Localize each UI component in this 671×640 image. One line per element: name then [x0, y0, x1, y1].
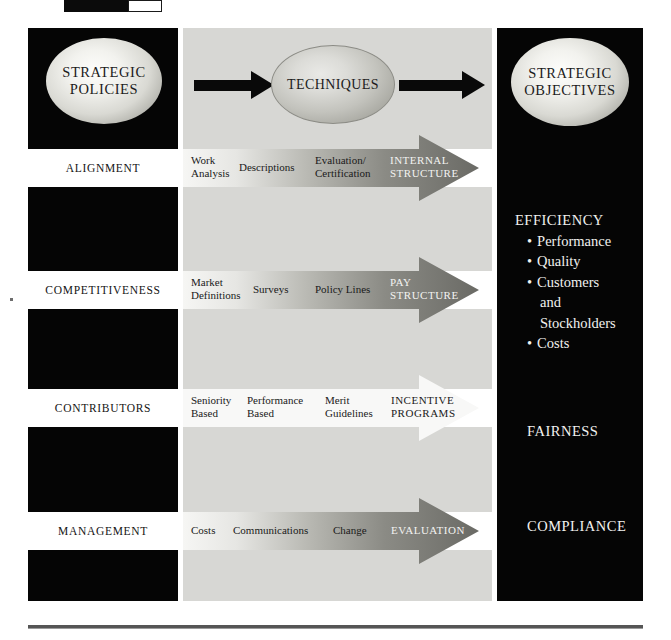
bullet-icon: • [527, 233, 532, 249]
artifact-white-box [128, 0, 162, 12]
technique-label: Communications [233, 524, 325, 537]
process-arrow-management: Costs Communications Change EVALUATION [183, 498, 479, 564]
process-arrow-alignment: Work Analysis Descriptions Evaluation/ C… [183, 135, 479, 201]
arrow-techniques-to-objectives [399, 71, 487, 99]
technique-label: Surveys [253, 283, 309, 296]
technique-label: Evaluation/ Certification [315, 154, 389, 181]
list-item-continuation: and [527, 292, 616, 313]
process-arrow-contributors: Seniority Based Performance Based Merit … [183, 375, 479, 441]
list-item: •Quality [527, 251, 616, 272]
list-item-continuation: Stockholders [527, 313, 616, 334]
process-arrow-labels: Seniority Based Performance Based Merit … [183, 375, 479, 441]
technique-label: Policy Lines [315, 283, 391, 296]
list-item-label: Customers [537, 274, 599, 290]
bullet-icon: • [527, 274, 532, 290]
process-arrow-labels: Costs Communications Change EVALUATION [183, 498, 479, 564]
artifact-black-bar [64, 0, 128, 12]
technique-label: Descriptions [239, 161, 323, 174]
objective-efficiency-heading: EFFICIENCY [515, 210, 616, 231]
objective-compliance: COMPLIANCE [527, 518, 626, 535]
strategic-objectives-title-line2: OBJECTIVES [524, 82, 615, 99]
policy-label-competitiveness: COMPETITIVENESS [28, 271, 178, 309]
arrow-head [462, 71, 485, 99]
list-item: •Performance [527, 231, 616, 252]
arrow-shaft [399, 80, 463, 91]
policy-label-contributors: CONTRIBUTORS [28, 389, 178, 427]
technique-label: Costs [191, 524, 231, 537]
outcome-label: INCENTIVE PROGRAMS [391, 394, 473, 421]
techniques-ellipse: TECHNIQUES [271, 45, 395, 124]
strategic-policies-ellipse: STRATEGIC POLICIES [46, 38, 162, 124]
objective-efficiency-list: •Performance •Quality •Customers and Sto… [515, 231, 616, 354]
list-item-label: Costs [537, 335, 569, 351]
technique-label: Performance Based [247, 394, 321, 421]
process-arrow-competitiveness: Market Definitions Surveys Policy Lines … [183, 257, 479, 323]
objective-fairness: FAIRNESS [527, 423, 598, 440]
strategic-policies-title-line2: POLICIES [70, 81, 138, 98]
outcome-label: PAY STRUCTURE [390, 276, 470, 303]
technique-label: Work Analysis [191, 154, 239, 181]
list-item-label: Performance [537, 233, 611, 249]
outcome-label: EVALUATION [391, 524, 475, 537]
top-crop-artifact [64, 0, 162, 12]
list-item: •Customers [527, 272, 616, 293]
bullet-icon: • [527, 253, 532, 269]
strategic-objectives-title-line1: STRATEGIC [528, 65, 612, 82]
strategic-policies-title-line1: STRATEGIC [62, 64, 146, 81]
bottom-divider [28, 625, 643, 629]
arrow-policies-to-techniques [194, 71, 274, 99]
technique-label: Market Definitions [191, 276, 249, 303]
technique-label: Merit Guidelines [325, 394, 389, 421]
strategic-objectives-ellipse: STRATEGIC OBJECTIVES [511, 38, 629, 126]
policy-label-alignment: ALIGNMENT [28, 149, 178, 187]
scan-speck-artifact [10, 298, 13, 301]
list-item: •Costs [527, 333, 616, 354]
bullet-icon: • [527, 335, 532, 351]
technique-label: Seniority Based [191, 394, 247, 421]
techniques-title: TECHNIQUES [287, 77, 379, 93]
outcome-label: INTERNAL STRUCTURE [390, 154, 470, 181]
process-arrow-labels: Market Definitions Surveys Policy Lines … [183, 257, 479, 323]
process-arrow-labels: Work Analysis Descriptions Evaluation/ C… [183, 135, 479, 201]
objective-efficiency: EFFICIENCY •Performance •Quality •Custom… [515, 210, 616, 354]
arrow-shaft [194, 80, 252, 91]
technique-label: Change [333, 524, 389, 537]
strategic-objectives-panel: STRATEGIC OBJECTIVES EFFICIENCY •Perform… [497, 28, 643, 601]
list-item-label: Quality [537, 253, 581, 269]
policy-label-management: MANAGEMENT [28, 512, 178, 550]
